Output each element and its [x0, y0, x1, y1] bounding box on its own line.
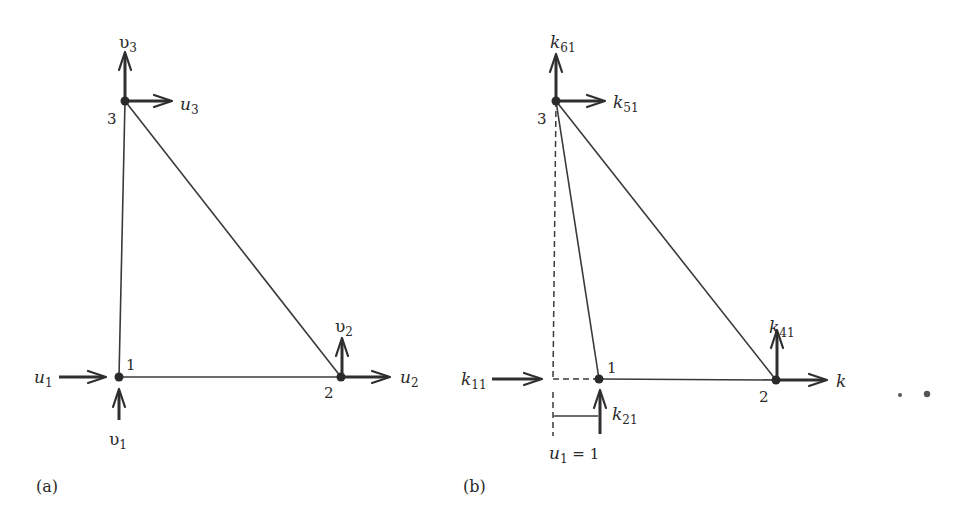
u1-equals-1-label: u1 = 1: [549, 443, 599, 466]
v1-label: υ1: [109, 429, 127, 452]
node-1-label: 1: [126, 356, 136, 374]
edge-1-2: [599, 379, 776, 380]
panel-b: k61 k51 3 k11 1 k21 u1 = 1 k41 k 2 (b): [461, 32, 930, 496]
v1-arrow-icon: [113, 389, 125, 420]
u3-label: u3: [180, 94, 199, 117]
k41-label: k41: [769, 317, 795, 340]
node-3-dot: [121, 97, 130, 106]
k51-arrow-icon: [556, 95, 605, 107]
node-2-dot: [772, 376, 781, 385]
stray-mark: [924, 391, 930, 397]
node-3-dot: [552, 97, 561, 106]
edge-3-2: [125, 101, 341, 377]
node-2-label: 2: [324, 384, 334, 402]
node-1-label: 1: [607, 359, 617, 377]
edge-3-2: [556, 101, 776, 380]
panel-a: υ3 u3 3 u1 1 υ1 υ2 u2 2 (a): [34, 32, 419, 496]
u3-arrow-icon: [125, 95, 172, 107]
panel-a-caption: (a): [36, 477, 58, 496]
figure-canvas: υ3 u3 3 u1 1 υ1 υ2 u2 2 (a): [0, 0, 962, 530]
node-3-label: 3: [537, 110, 547, 128]
k61-arrow-icon: [550, 54, 562, 101]
edge-3-1: [119, 101, 125, 377]
u2-label: u2: [400, 367, 419, 390]
k-label: k: [836, 371, 846, 391]
v3-arrow-icon: [119, 52, 131, 101]
panel-b-caption: (b): [463, 477, 486, 496]
v2-label: υ2: [335, 316, 353, 339]
node-2-label: 2: [759, 388, 769, 406]
edge-3-1: [556, 101, 599, 379]
k51-label: k51: [613, 92, 639, 115]
k-arrow-icon: [776, 374, 827, 386]
k21-arrow-icon: [594, 390, 606, 434]
k61-label: k61: [550, 32, 576, 55]
u1-label: u1: [34, 367, 53, 390]
u1-arrow-icon: [59, 371, 106, 383]
stray-mark: [898, 393, 902, 397]
original-edge-3-1-dashed: [553, 101, 556, 379]
k11-label: k11: [461, 369, 487, 392]
node-1-dot: [595, 375, 604, 384]
u2-arrow-icon: [341, 371, 390, 383]
v2-arrow-icon: [336, 338, 348, 377]
node-3-label: 3: [107, 110, 117, 128]
v3-label: υ3: [119, 32, 137, 55]
node-1-dot: [115, 373, 124, 382]
k11-arrow-icon: [492, 373, 542, 385]
node-2-dot: [337, 373, 346, 382]
k21-label: k21: [612, 404, 638, 427]
